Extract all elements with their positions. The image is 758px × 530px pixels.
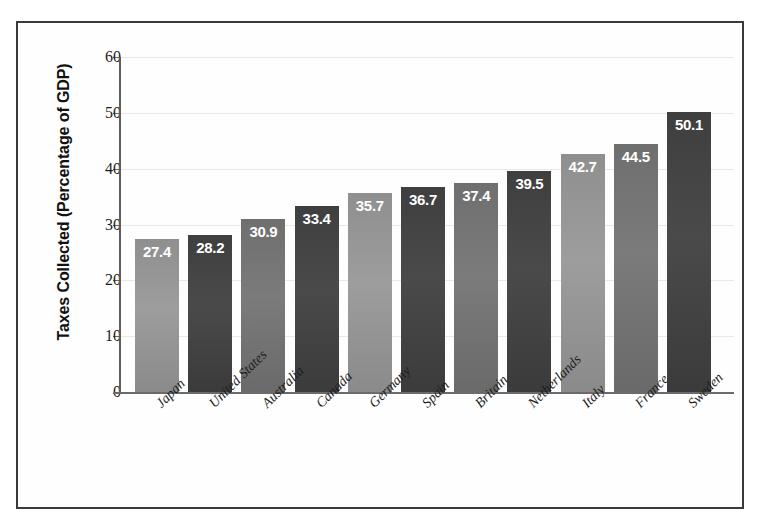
- bar[interactable]: 39.5: [507, 171, 551, 392]
- plot-area: 6050403020100 27.428.230.933.435.736.737…: [119, 53, 736, 396]
- bar-column[interactable]: 36.7: [401, 187, 445, 392]
- bar-value-label: 44.5: [614, 148, 658, 165]
- chart-frame: Taxes Collected (Percentage of GDP) 6050…: [16, 21, 744, 509]
- bar-value-label: 27.4: [135, 243, 179, 260]
- bar-value-label: 50.1: [667, 116, 711, 133]
- bar[interactable]: 36.7: [401, 187, 445, 392]
- y-tick-label: 50: [81, 104, 121, 122]
- bar-column[interactable]: 33.4: [295, 206, 339, 392]
- bar[interactable]: 50.1: [667, 112, 711, 392]
- bar[interactable]: 44.5: [614, 144, 658, 392]
- bar-series: 27.428.230.933.435.736.737.439.542.744.5…: [119, 53, 734, 392]
- bar[interactable]: 33.4: [295, 206, 339, 392]
- y-tick-label: 20: [81, 271, 121, 289]
- bar-value-label: 28.2: [188, 239, 232, 256]
- y-tick-label: 40: [81, 160, 121, 178]
- bar-value-label: 30.9: [241, 223, 285, 240]
- bar[interactable]: 28.2: [188, 235, 232, 392]
- bar-column[interactable]: 37.4: [454, 183, 498, 392]
- bar-value-label: 42.7: [561, 158, 605, 175]
- bar-value-label: 33.4: [295, 210, 339, 227]
- bar-column[interactable]: 27.4: [135, 239, 179, 392]
- y-tick-label: 30: [81, 216, 121, 234]
- y-tick-label: 10: [81, 327, 121, 345]
- bar-column[interactable]: 35.7: [348, 193, 392, 392]
- y-axis-title: Taxes Collected (Percentage of GDP): [55, 52, 73, 352]
- bar-column[interactable]: 28.2: [188, 235, 232, 392]
- bar-column[interactable]: 39.5: [507, 171, 551, 392]
- bar-value-label: 37.4: [454, 187, 498, 204]
- bar[interactable]: 37.4: [454, 183, 498, 392]
- bar-value-label: 39.5: [507, 175, 551, 192]
- y-tick-label: 60: [81, 48, 121, 66]
- bar[interactable]: 27.4: [135, 239, 179, 392]
- bar-value-label: 36.7: [401, 191, 445, 208]
- bar-column[interactable]: 50.1: [667, 112, 711, 392]
- bar-column[interactable]: 44.5: [614, 144, 658, 392]
- bar-value-label: 35.7: [348, 197, 392, 214]
- bar[interactable]: 35.7: [348, 193, 392, 392]
